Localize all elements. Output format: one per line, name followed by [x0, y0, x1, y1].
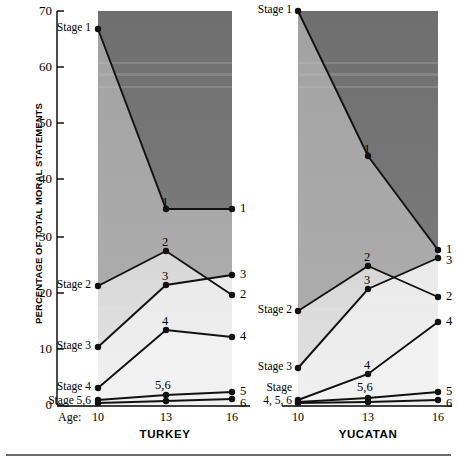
y-tick-60: 60	[28, 59, 52, 75]
yucatan-end-3: 3	[446, 253, 452, 268]
y-tick-30: 30	[28, 229, 52, 245]
yucatan-x-tick-10: 10	[288, 410, 308, 425]
figure-root: PERCENTAGE OF TOTAL MORAL STATEMENTS 70 …	[0, 0, 457, 464]
yucatan-x-tick-16: 16	[428, 410, 448, 425]
yucatan-panel-tint	[298, 11, 438, 405]
turkey-label-stage56: Stage 5,6	[25, 394, 91, 406]
turkey-label-stage2: Stage 2	[39, 278, 91, 290]
yucatan-label-stage3: Stage 3	[240, 360, 292, 372]
turkey-mid-3: 3	[162, 269, 168, 284]
turkey-x-tick-10: 10	[88, 410, 108, 425]
panel-title-turkey: TURKEY	[98, 428, 232, 440]
yucatan-label-stage2: Stage 2	[240, 303, 292, 315]
turkey-x-tick-16: 16	[222, 410, 242, 425]
age-key-label: Age:	[58, 410, 81, 425]
turkey-mid-2: 2	[162, 235, 168, 250]
y-axis-title: PERCENTAGE OF TOTAL MORAL STATEMENTS	[33, 64, 44, 364]
yucatan-end-4: 4	[446, 314, 452, 329]
y-tick-50: 50	[28, 115, 52, 131]
turkey-x-tick-13: 13	[156, 410, 176, 425]
y-tick-40: 40	[28, 171, 52, 187]
yucatan-x-tick-13: 13	[358, 410, 378, 425]
turkey-mid-4: 4	[162, 314, 168, 329]
turkey-end-4: 4	[240, 329, 246, 344]
turkey-label-stage3: Stage 3	[39, 339, 91, 351]
turkey-label-stage1: Stage 1	[39, 21, 91, 33]
turkey-label-stage4: Stage 4	[39, 380, 91, 392]
yucatan-mid-3: 3	[364, 273, 370, 288]
turkey-end-3: 3	[240, 267, 246, 282]
panel-title-yucatan: YUCATAN	[298, 428, 438, 440]
yucatan-label-stage1: Stage 1	[240, 3, 292, 15]
yucatan-mid-56: 5,6	[357, 380, 373, 395]
yucatan-mid-4: 4	[364, 358, 370, 373]
turkey-end-1: 1	[240, 201, 246, 216]
yucatan-bands	[298, 11, 438, 405]
turkey-mid-1: 1	[162, 195, 168, 210]
yucatan-end-6: 6	[446, 396, 452, 411]
yucatan-mid-2: 2	[364, 250, 370, 265]
yucatan-end-2: 2	[446, 289, 452, 304]
yucatan-mid-1: 1	[364, 142, 370, 157]
turkey-end-2: 2	[240, 287, 246, 302]
yucatan-label-stage456: 4, 5, 6	[240, 394, 292, 406]
y-tick-70: 70	[28, 3, 52, 19]
yucatan-label-stage-word: Stage	[240, 381, 292, 393]
turkey-mid-56: 5,6	[155, 378, 171, 393]
